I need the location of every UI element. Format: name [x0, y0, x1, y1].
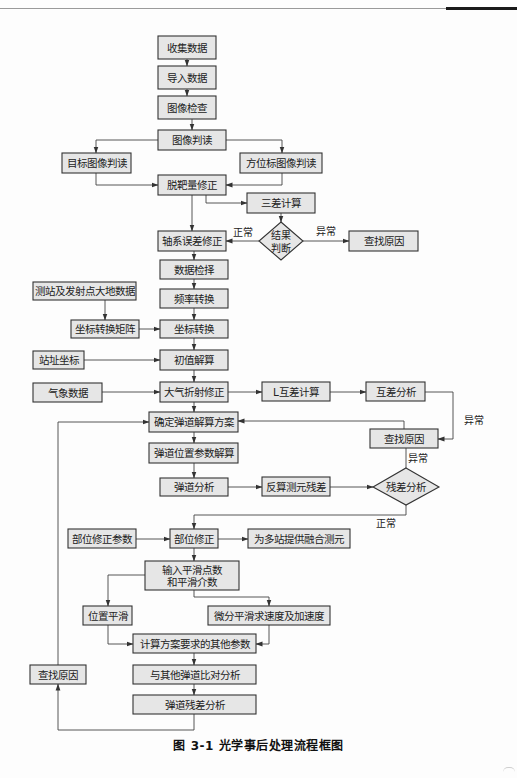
node-label: 确定弹道解算方案 — [154, 416, 235, 428]
node-label: 部位修正 — [174, 533, 214, 545]
node-label: 目标图像判读 — [67, 157, 128, 169]
node-frequency-conversion: 频率转换 — [160, 289, 228, 308]
node-mutual-diff-analysis: 互差分析 — [366, 382, 425, 401]
node-label: 部位修正参数 — [72, 533, 133, 545]
node-find-cause-mid: 查找原因 — [370, 429, 438, 448]
node-coord-transform-matrix: 坐标转换矩阵 — [71, 320, 139, 338]
node-label: 测站及发射点大地数据 — [35, 285, 136, 297]
node-trajectory-residual-analysis: 弹道残差分析 — [133, 695, 256, 714]
node-import-data: 导入数据 — [158, 66, 216, 89]
edge-label-normal: 正常 — [233, 226, 253, 238]
node-station-geodetic-data: 测站及发射点大地数据 — [33, 282, 136, 300]
node-label: 数据检择 — [174, 264, 215, 276]
node-label: 与其他弹道比对分析 — [150, 669, 241, 681]
node-atmos-refraction-correction: 大气折射修正 — [160, 382, 228, 402]
node-label: 和平滑介数 — [167, 576, 218, 588]
node-back-calc-residual: 反算测元残差 — [262, 477, 330, 496]
page-curl-decoration — [503, 767, 515, 772]
node-result-judge: 结果 判断 — [259, 222, 303, 260]
node-position-smoothing: 位置平滑 — [83, 606, 132, 625]
node-find-cause-bottom: 查找原因 — [30, 665, 86, 684]
node-label: 判断 — [271, 242, 291, 254]
node-label: 查找原因 — [38, 669, 78, 681]
node-axis-error-correction: 轴系误差修正 — [158, 231, 226, 251]
node-label: 坐标转换矩阵 — [75, 323, 136, 335]
node-three-diff-calc: 三差计算 — [247, 193, 315, 213]
node-azimuth-mark-interpret: 方位标图像判读 — [240, 153, 322, 173]
node-calc-other-params: 计算方案要求的其他参数 — [133, 634, 256, 653]
node-find-cause-top: 查找原因 — [349, 231, 418, 251]
document-page: 收集数据 导入数据 图像检查 图像判读 目标图像判读 方位标图像判读 脱靶量修正 — [0, 0, 517, 778]
node-label: 查找原因 — [384, 433, 424, 445]
node-label: 位置平滑 — [88, 610, 128, 622]
node-label: 坐标转换 — [174, 323, 215, 335]
node-data-selection: 数据检择 — [160, 260, 228, 279]
node-label: 结果 — [271, 229, 291, 241]
node-label: 互差分析 — [376, 386, 417, 398]
node-compare-other-trajectories: 与其他弹道比对分析 — [133, 665, 256, 684]
node-multi-station-fusion: 为多站提供融合测元 — [248, 529, 350, 548]
node-label: 图像检查 — [167, 102, 208, 114]
node-diff-smoothing-vel-acc: 微分平滑求速度及加速度 — [208, 606, 330, 625]
node-label: 弹道残差分析 — [165, 699, 226, 711]
node-label: 微分平滑求速度及加速度 — [214, 610, 325, 622]
node-trajectory-position-solution: 弹道位置参数解算 — [149, 443, 238, 463]
node-determine-trajectory-plan: 确定弹道解算方案 — [149, 412, 238, 432]
node-station-coords: 站址坐标 — [33, 351, 84, 369]
node-label: 弹道分析 — [174, 481, 215, 493]
node-residual-analysis: 残差分析 — [373, 468, 439, 505]
node-part-correction: 部位修正 — [170, 529, 218, 548]
node-label: 输入平滑点数 — [162, 564, 223, 576]
node-label: 频率转换 — [174, 293, 215, 305]
node-label: 反算测元残差 — [266, 481, 326, 493]
node-trajectory-analysis: 弹道分析 — [160, 478, 228, 496]
node-label: 收集数据 — [167, 42, 208, 54]
node-label: 站址坐标 — [39, 354, 80, 366]
node-label: 残差分析 — [386, 481, 427, 493]
node-label: 初值解算 — [174, 354, 214, 366]
node-initial-solution: 初值解算 — [160, 350, 228, 370]
node-label: 轴系误差修正 — [162, 235, 222, 247]
node-collect-data: 收集数据 — [158, 36, 216, 59]
figure-caption: 图 3-1 光学事后处理流程框图 — [0, 736, 517, 753]
node-label: 图像判读 — [172, 134, 213, 146]
node-label: 三差计算 — [261, 197, 301, 209]
node-miss-distance-correction: 脱靶量修正 — [158, 175, 226, 195]
node-l-mutual-diff-calc: L互差计算 — [262, 382, 330, 401]
edge-label-abnormal: 异常 — [408, 452, 428, 464]
edge-label-normal: 正常 — [376, 517, 396, 529]
node-label: 导入数据 — [167, 72, 208, 84]
node-label: 计算方案要求的其他参数 — [140, 638, 251, 650]
node-meteorological-data: 气象数据 — [33, 383, 102, 402]
node-image-check: 图像检查 — [158, 96, 216, 119]
node-target-image-interpret: 目标图像判读 — [62, 153, 131, 173]
edge-label-abnormal: 异常 — [464, 414, 484, 426]
node-label: 大气折射修正 — [164, 386, 224, 398]
node-label: 为多站提供融合测元 — [254, 533, 345, 545]
node-label: 脱靶量修正 — [167, 179, 217, 191]
node-part-correction-params: 部位修正参数 — [68, 529, 136, 548]
edge-label-abnormal: 异常 — [316, 225, 336, 237]
node-label: 方位标图像判读 — [246, 157, 317, 169]
node-label: 弹道位置参数解算 — [154, 447, 234, 459]
node-label: 气象数据 — [48, 387, 89, 399]
node-coord-transform: 坐标转换 — [160, 320, 228, 338]
node-label: L互差计算 — [273, 386, 319, 398]
node-image-interpret: 图像判读 — [158, 130, 226, 150]
flowchart: 收集数据 导入数据 图像检查 图像判读 目标图像判读 方位标图像判读 脱靶量修正 — [0, 0, 517, 778]
node-smoothing-input: 输入平滑点数 和平滑介数 — [145, 561, 239, 590]
node-label: 查找原因 — [364, 235, 404, 247]
